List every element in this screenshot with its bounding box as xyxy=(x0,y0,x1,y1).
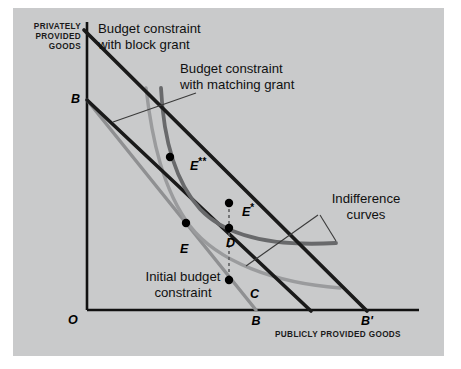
point-label-E: E xyxy=(166,228,188,270)
point-label-D: D xyxy=(212,222,235,264)
x-tick-label-B: B xyxy=(245,314,267,328)
callout-initial-budget-line-1: Initial budget xyxy=(133,270,233,285)
callout-matching-grant-line-1: Budget constraint xyxy=(180,62,283,77)
point-label-C: C xyxy=(236,273,259,315)
x-axis-title: PUBLICLY PROVIDED GOODS xyxy=(258,330,418,339)
callout-matching-grant-line-2: with matching grant xyxy=(180,78,294,93)
y-axis-title-line-3: GOODS xyxy=(13,42,81,51)
figure-root: PRIVATELY PROVIDED GOODS PUBLICLY PROVID… xyxy=(0,0,461,369)
point-label-C-text: C xyxy=(250,287,259,301)
point-E xyxy=(182,219,190,227)
point-label-E-double-star: E** xyxy=(176,142,207,187)
y-axis-title-line-1: PRIVATELY xyxy=(13,22,81,31)
point-label-E-star-text: E xyxy=(242,205,250,219)
callout-initial-budget-line-2: constraint xyxy=(133,286,233,301)
point-label-E-double-star-sup: ** xyxy=(198,156,206,167)
callout-block-grant-line-2: with block grant xyxy=(98,38,190,53)
origin-label-O: O xyxy=(68,313,78,327)
leader-line-matching-grant xyxy=(113,93,196,122)
x-tick-label-B-prime: B' xyxy=(356,314,378,328)
callout-indifference-line-1: Indifference xyxy=(320,192,412,207)
point-label-D-text: D xyxy=(226,236,235,250)
point-E-double-star xyxy=(166,153,174,161)
point-label-E-star-sup: * xyxy=(250,202,254,213)
y-intercept-label-B: B xyxy=(58,92,80,106)
point-label-E-text: E xyxy=(180,242,188,256)
callout-block-grant-line-1: Budget constraint xyxy=(98,22,201,37)
y-axis-title-line-2: PROVIDED xyxy=(13,32,81,41)
callout-indifference-line-2: curves xyxy=(320,208,412,223)
leader-line-indifference-a xyxy=(246,215,318,266)
point-label-E-double-star-text: E xyxy=(190,159,198,173)
